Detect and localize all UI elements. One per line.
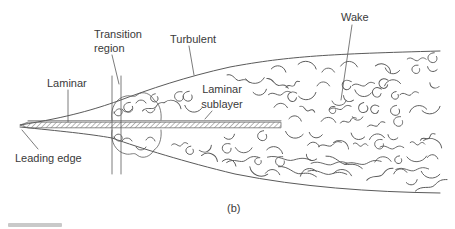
eddy-scribble: [366, 167, 394, 182]
eddy-scribble: [352, 82, 375, 87]
eddy-scribble: [369, 133, 385, 139]
eddy-scribble: [254, 157, 261, 165]
wake-eddy: [332, 101, 346, 106]
flow-diagram-svg: Laminar Transition region Turbulent Wake…: [0, 0, 455, 229]
eddy-scribble: [271, 64, 287, 72]
subfigure-caption: (b): [227, 202, 240, 214]
eddy-scribble: [164, 98, 183, 109]
eddy-scribble: [289, 115, 302, 121]
upper-burst-scribbles: [114, 100, 155, 116]
eddy-scribble: [333, 168, 352, 175]
wake-leader-line: [341, 25, 352, 100]
eddy-scribble: [407, 156, 427, 162]
eddy-scribble: [340, 117, 357, 125]
laminar-sublayer-label-line1: Laminar: [202, 83, 242, 95]
eddy-scribble: [400, 91, 419, 96]
boundary-layer-diagram: Laminar Transition region Turbulent Wake…: [0, 0, 455, 229]
eddy-scribble: [393, 116, 403, 126]
bottom-boundary-curve: [20, 127, 440, 193]
eddy-scribble: [308, 132, 322, 139]
eddy-scribble: [318, 141, 341, 148]
eddy-scribble: [222, 143, 232, 154]
eddy-scribble: [299, 92, 317, 101]
eddy-scribble: [429, 83, 440, 90]
eddy-scribble: [427, 154, 438, 159]
eddy-scribble: [267, 145, 284, 154]
eddy-scribble: [396, 168, 429, 172]
laminar-sublayer-leader-line: [205, 111, 212, 119]
eddy-scribble: [298, 59, 317, 69]
eddy-scribble: [334, 138, 351, 149]
eddy-scribble: [266, 77, 289, 90]
lower-burst-scribbles: [114, 134, 155, 150]
eddy-scribble: [308, 141, 320, 146]
transition-region-label-line1: Transition: [94, 28, 142, 40]
eddy-scribble: [222, 157, 237, 166]
eddy-scribble: [407, 58, 426, 61]
eddy-scribble: [375, 61, 392, 72]
eddy-scribble: [253, 89, 267, 96]
eddy-scribble: [142, 101, 165, 112]
eddy-scribble: [394, 155, 402, 164]
eddy-scribble: [412, 65, 420, 74]
laminar-sublayer-label-line2: sublayer: [201, 98, 243, 110]
eddy-scribble: [224, 134, 235, 140]
eddy-scribble: [384, 68, 399, 75]
eddy-scribble: [353, 142, 368, 147]
eddy-scribble: [341, 61, 358, 67]
eddy-scribble: [317, 82, 330, 86]
eddy-scribble: [285, 131, 303, 139]
eddy-scribble: [267, 156, 311, 162]
eddy-scribble: [367, 121, 385, 128]
laminar-label: Laminar: [47, 77, 87, 89]
eddy-scribble: [321, 117, 336, 123]
eddy-scribble: [424, 136, 444, 148]
eddy-scribble: [274, 103, 288, 108]
eddy-scribble: [357, 102, 369, 114]
eddy-scribble: [172, 142, 188, 146]
eddy-scribble: [380, 146, 404, 150]
eddy-scribble: [184, 105, 202, 113]
eddy-scribble: [235, 148, 252, 153]
eddy-scribble: [174, 91, 183, 101]
eddy-scribble: [329, 106, 336, 114]
turbulent-label: Turbulent: [170, 33, 216, 45]
flat-plate: [20, 122, 281, 128]
eddy-scribble: [278, 165, 317, 178]
eddy-scribble: [374, 139, 383, 149]
eddy-scribble: [322, 68, 335, 72]
eddy-scribble: [406, 180, 418, 187]
eddy-scribble: [391, 91, 400, 100]
eddy-scribble: [389, 105, 400, 117]
eddy-scribble: [415, 178, 448, 192]
wake-label: Wake: [341, 11, 369, 23]
transition-leader-line: [112, 55, 119, 84]
turbulent-leader-line: [189, 46, 194, 75]
cropped-figure-label: [8, 223, 62, 227]
eddy-scribble: [305, 154, 317, 162]
eddy-scribble: [420, 133, 436, 142]
eddy-scribble: [387, 135, 398, 141]
eddy-scribble: [410, 141, 425, 146]
transition-region-label-line2: region: [94, 42, 125, 54]
eddy-scribble: [150, 93, 159, 103]
eddy-scribble: [375, 156, 391, 162]
eddy-scribble: [299, 105, 315, 114]
eddy-scribble: [427, 52, 438, 63]
eddy-scribble: [256, 130, 267, 142]
eddy-scribble: [342, 96, 353, 104]
eddy-scribble: [354, 90, 371, 98]
eddy-scribble: [350, 133, 365, 141]
leading-edge-label: Leading edge: [15, 152, 82, 164]
eddy-scribble: [246, 78, 265, 84]
eddy-scribble: [369, 104, 380, 115]
eddy-scribble: [185, 146, 194, 156]
eddy-scribble: [409, 104, 427, 112]
eddy-scribble: [287, 91, 299, 103]
leading-edge-leader-line: [22, 130, 38, 149]
eddy-scribble: [420, 171, 439, 179]
eddy-scribble: [427, 67, 438, 73]
